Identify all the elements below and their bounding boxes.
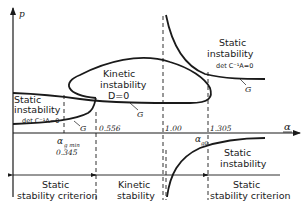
region-static-upper-right: Static instability det C⁻¹A=0 xyxy=(207,37,254,70)
svg-text:det C⁻¹A=0: det C⁻¹A=0 xyxy=(216,62,253,70)
svg-text:instability: instability xyxy=(100,79,147,90)
marker-1305: 1.305 xyxy=(210,124,232,133)
alpha-g-min-symbol: α xyxy=(57,136,63,146)
svg-text:Kinetic: Kinetic xyxy=(103,68,135,79)
svg-text:Static: Static xyxy=(42,179,69,190)
alpha-axis-label: α xyxy=(284,121,291,132)
stability-diagram: p α G G G Static instability det C⁻¹A xyxy=(0,0,304,211)
svg-text:stability criterion: stability criterion xyxy=(17,190,98,201)
svg-text:stability: stability xyxy=(117,190,155,201)
region-static-left: Static instability det C⁻¹A=0 xyxy=(14,94,61,125)
marker-0556: 0.556 xyxy=(99,124,121,133)
svg-text:D=0: D=0 xyxy=(108,90,129,101)
alpha-g-min-value: 0.345 xyxy=(56,148,78,157)
svg-text:det C⁻¹A=0: det C⁻¹A=0 xyxy=(22,117,59,125)
region-static-lower-right: Static instability xyxy=(220,147,267,169)
bottom-zone-labels: Static stability criterion Kinetic stabi… xyxy=(17,179,291,201)
svg-text:stability criterion: stability criterion xyxy=(210,190,291,201)
svg-text:Static: Static xyxy=(233,179,260,190)
p-axis-label: p xyxy=(19,9,25,19)
g-label-kinetic: G xyxy=(137,110,144,119)
alpha-g0-sub: g0 xyxy=(201,140,209,147)
svg-text:Static: Static xyxy=(219,37,246,48)
marker-100: 1.00 xyxy=(165,124,182,133)
svg-text:instability: instability xyxy=(220,158,267,169)
svg-text:Kinetic: Kinetic xyxy=(118,179,150,190)
region-kinetic-instability: Kinetic instability D=0 xyxy=(100,68,147,101)
svg-text:instability: instability xyxy=(207,48,254,59)
svg-text:Static: Static xyxy=(224,147,251,158)
g-label-left: G xyxy=(80,124,87,133)
svg-text:instability: instability xyxy=(14,104,61,115)
g-label-right: G xyxy=(245,85,252,94)
